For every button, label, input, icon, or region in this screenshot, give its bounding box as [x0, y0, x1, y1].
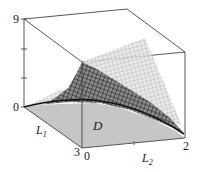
l2-axis-label: L2 [142, 152, 153, 167]
l1-axis-label: L1 [36, 124, 47, 139]
l2-axis-label-main: L [142, 151, 149, 165]
region-d-label: D [93, 119, 102, 132]
l1-axis-end-label: 3 [74, 146, 80, 158]
z-axis-label-top: 9 [13, 13, 19, 25]
l2-axis-end-label: 2 [183, 140, 189, 152]
z-axis-label-bottom: 0 [13, 101, 19, 113]
l1-axis-label-main: L [36, 123, 43, 137]
l2-axis-start-label: 0 [84, 150, 90, 162]
surface-plot [0, 0, 203, 172]
l1-axis-label-sub: 1 [43, 130, 47, 139]
l2-axis-label-sub: 2 [149, 158, 153, 167]
